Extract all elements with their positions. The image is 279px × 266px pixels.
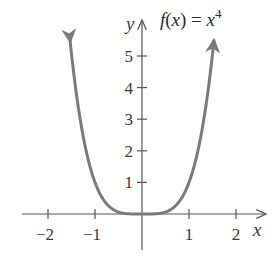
function-graph: −2−112 12345 x y f(x) = x4 — [0, 0, 279, 266]
x-tick-label: 2 — [232, 225, 241, 244]
y-tick-label: 1 — [125, 173, 134, 192]
title-paren-close: ) = — [180, 9, 207, 31]
y-tick-label: 3 — [125, 110, 134, 129]
x-tick-label: 1 — [185, 225, 194, 244]
function-title: f(x) = x4 — [160, 6, 222, 31]
y-tick-label: 5 — [125, 47, 134, 66]
x-axis-label: x — [252, 219, 262, 240]
y-tick-label: 2 — [125, 142, 134, 161]
title-exponent: 4 — [215, 6, 222, 21]
x-tick-label: −1 — [83, 225, 101, 244]
x-tick-label: −2 — [36, 225, 54, 244]
y-axis-label: y — [124, 13, 135, 34]
y-axis-ticks: 12345 — [125, 47, 148, 192]
y-tick-label: 4 — [125, 79, 134, 98]
